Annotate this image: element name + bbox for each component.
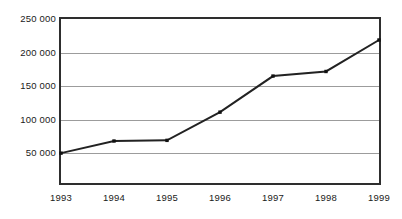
data-point-1996 [218, 110, 221, 113]
x-axis-tick-label: 1995 [147, 192, 187, 203]
chart-screenshot: 250 000 200 000 150 000 100 000 50 000 [0, 0, 402, 219]
series-polyline [61, 40, 379, 153]
x-axis-tick-label: 1997 [253, 192, 293, 203]
x-axis-tick-label: 1996 [200, 192, 240, 203]
data-point-1997 [271, 74, 274, 77]
x-axis-tick-labels: 1993 1994 1995 1996 1997 1998 1999 [59, 192, 381, 208]
y-axis-tick-label: 100 000 [0, 115, 56, 125]
data-point-1999 [377, 38, 380, 41]
data-point-1998 [324, 70, 327, 73]
plot-area [59, 17, 381, 185]
x-axis-tick-label: 1993 [41, 192, 81, 203]
y-axis-tick-label: 250 000 [0, 14, 56, 24]
line-series [61, 19, 379, 183]
y-axis-tick-label: 150 000 [0, 81, 56, 91]
y-axis-tick-label: 200 000 [0, 48, 56, 58]
data-point-1993 [59, 151, 62, 154]
plot-inner [61, 19, 379, 183]
x-axis-tick-label: 1998 [306, 192, 346, 203]
data-point-1995 [165, 139, 168, 142]
y-axis-tick-label: 50 000 [0, 148, 56, 158]
x-axis-tick-label: 1999 [359, 192, 399, 203]
y-axis-tick-labels: 250 000 200 000 150 000 100 000 50 000 [0, 17, 56, 185]
x-axis-tick-label: 1994 [94, 192, 134, 203]
data-point-1994 [112, 139, 115, 142]
